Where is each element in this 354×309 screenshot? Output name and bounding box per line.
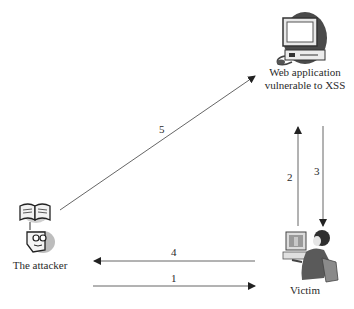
edge-2-label: 2 — [287, 171, 293, 183]
edge-5-arrow — [60, 76, 255, 210]
edge-3-label: 3 — [314, 165, 320, 177]
edge-5-label: 5 — [159, 123, 165, 135]
web-app-label-line1: Web application — [255, 66, 354, 79]
web-app-label-line2: vulnerable to XSS — [255, 79, 354, 92]
edge-1-label: 1 — [171, 272, 177, 284]
edge-4-label: 4 — [171, 246, 177, 258]
web-app-label: Web application vulnerable to XSS — [255, 66, 354, 92]
attacker-book-icon — [20, 204, 50, 230]
attacker-label: The attacker — [2, 259, 78, 272]
server-computer-icon — [277, 12, 327, 65]
victim-label: Victim — [280, 284, 330, 297]
attacker-face-icon — [27, 231, 55, 253]
user-at-computer-icon — [283, 230, 338, 282]
